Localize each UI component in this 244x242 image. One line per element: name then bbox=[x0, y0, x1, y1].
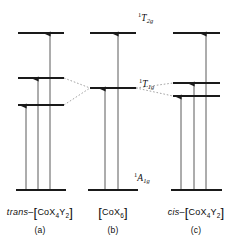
term-label-t1g: 1T1g bbox=[139, 78, 154, 90]
term-subscript: 1g bbox=[143, 177, 150, 184]
term-label-a1g: 1A1g bbox=[134, 172, 150, 184]
bracket-close: ] bbox=[221, 205, 225, 220]
species-label-cis: cis–[CoX4Y2] bbox=[168, 206, 225, 219]
term-label-t2g: 1T2g bbox=[138, 12, 153, 24]
bracket-close: ] bbox=[124, 205, 128, 220]
panel-caption-trans: (a) bbox=[35, 226, 46, 235]
isomer-prefix: cis bbox=[168, 207, 180, 217]
transition-arrows-group bbox=[26, 34, 206, 190]
bracket-close: ] bbox=[69, 205, 73, 220]
species-label-oh: [CoX6] bbox=[98, 206, 128, 219]
metal-fragment: CoX bbox=[189, 207, 207, 217]
panel-caption-cis: (c) bbox=[191, 226, 202, 235]
species-label-trans: trans–[CoX4Y2] bbox=[7, 206, 73, 219]
metal-fragment: CoX bbox=[102, 207, 120, 217]
energy-level-diagram: 1T2g1T1g1A1g trans–[CoX4Y2](a)[CoX6](b)c… bbox=[0, 0, 244, 242]
energy-levels-group bbox=[16, 33, 222, 190]
metal-fragment: CoX bbox=[37, 207, 55, 217]
isomer-prefix: trans bbox=[7, 207, 29, 217]
term-subscript: 2g bbox=[147, 17, 154, 24]
corr-trans-lower bbox=[64, 88, 90, 105]
panel-caption-oh: (b) bbox=[108, 226, 119, 235]
corr-trans-upper bbox=[64, 78, 90, 88]
term-subscript: 1g bbox=[148, 83, 155, 90]
